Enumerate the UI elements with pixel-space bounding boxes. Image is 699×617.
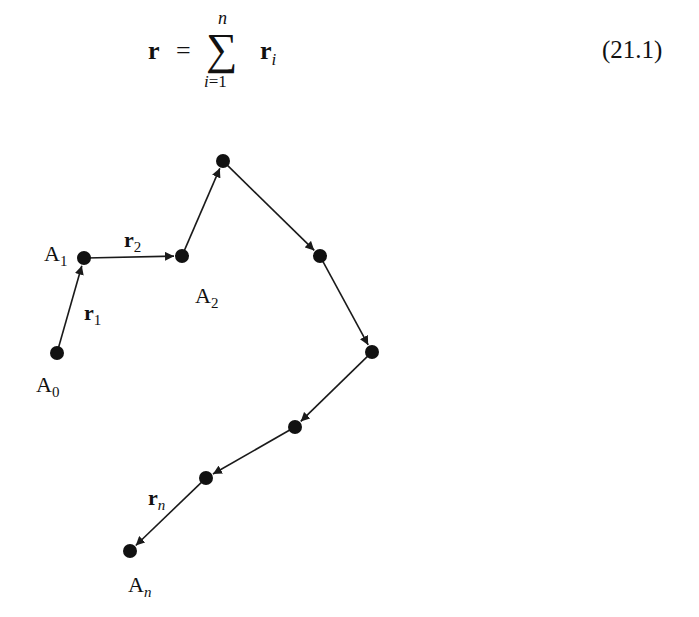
point-P4 bbox=[313, 249, 327, 263]
point-A2 bbox=[175, 249, 189, 263]
vector-A1-to-A2 bbox=[86, 256, 174, 258]
point-A0 bbox=[50, 346, 64, 360]
random-walk-diagram bbox=[0, 0, 699, 617]
vector-P3-to-P4 bbox=[224, 162, 314, 250]
label-A0: A0 bbox=[36, 372, 59, 401]
label-r2: r2 bbox=[124, 227, 141, 256]
label-rn: rn bbox=[148, 485, 165, 514]
vector-P7-to-An bbox=[136, 479, 205, 545]
label-An: An bbox=[128, 572, 151, 601]
point-A1 bbox=[77, 251, 91, 265]
displacement-vectors bbox=[58, 162, 371, 545]
label-A1: A1 bbox=[44, 241, 67, 270]
point-An bbox=[123, 544, 137, 558]
walk-points bbox=[50, 154, 379, 558]
vector-P4-to-P5 bbox=[321, 258, 368, 345]
point-P7 bbox=[199, 471, 213, 485]
vector-P6-to-P7 bbox=[213, 428, 293, 474]
label-r1: r1 bbox=[84, 300, 101, 329]
vector-A2-to-P3 bbox=[183, 168, 220, 254]
point-P6 bbox=[288, 420, 302, 434]
label-A2: A2 bbox=[195, 283, 218, 312]
point-P3 bbox=[216, 154, 230, 168]
point-P5 bbox=[365, 345, 379, 359]
vector-P5-to-P6 bbox=[301, 353, 371, 421]
vector-A0-to-A1 bbox=[58, 266, 82, 351]
